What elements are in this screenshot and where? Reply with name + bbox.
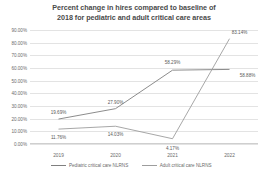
y-axis-tick-label: 30.00%: [11, 104, 27, 109]
data-label: 58.88%: [240, 73, 256, 78]
chart-container: Percent change in hires compared to base…: [0, 0, 263, 179]
series-line-2: [59, 39, 230, 139]
chart-title: Percent change in hires compared to base…: [18, 3, 250, 22]
x-axis-tick-label: 2019: [53, 153, 64, 158]
grid-line: [30, 144, 258, 145]
y-axis-tick-label: 90.00%: [11, 28, 27, 33]
x-axis-tick-label: 2020: [110, 153, 121, 158]
legend-item[interactable]: Pediatric critical care NLRNS: [51, 163, 128, 168]
chart-title-line-2: 2018 for pediatric and adult critical ca…: [18, 13, 250, 23]
data-label: 27.90%: [108, 99, 124, 104]
y-axis-tick-label: 20.00%: [11, 116, 27, 121]
y-axis-tick-label: 50.00%: [11, 78, 27, 83]
y-axis-tick-label: 10.00%: [11, 129, 27, 134]
data-label: 4.17%: [166, 145, 179, 150]
y-axis-tick-label: 70.00%: [11, 53, 27, 58]
chart-legend: Pediatric critical care NLRNSAdult criti…: [0, 163, 263, 168]
chart-title-line-1: Percent change in hires compared to base…: [18, 3, 250, 13]
y-axis-tick-label: 80.00%: [11, 40, 27, 45]
data-label: 11.76%: [51, 135, 66, 140]
legend-swatch-icon: [51, 165, 66, 166]
series-lines: [30, 30, 258, 144]
legend-label: Pediatric critical care NLRNS: [69, 163, 128, 168]
y-axis-tick-label: 60.00%: [11, 66, 27, 71]
y-axis-tick-label: 40.00%: [11, 91, 27, 96]
data-label: 58.29%: [165, 60, 181, 65]
data-label: 19.69%: [51, 110, 67, 115]
series-line-1: [59, 69, 230, 119]
legend-swatch-icon: [142, 165, 157, 166]
y-axis-tick-label: 0.00%: [14, 142, 27, 147]
x-axis-tick-label: 2021: [167, 153, 178, 158]
plot-area: 90.00%80.00%70.00%60.00%50.00%40.00%30.0…: [30, 30, 258, 144]
legend-item[interactable]: Adult critical care NLRNS: [142, 163, 211, 168]
x-axis-tick-label: 2022: [224, 153, 235, 158]
legend-label: Adult critical care NLRNS: [160, 163, 212, 168]
data-label: 83.14%: [232, 29, 248, 34]
data-label: 14.03%: [108, 132, 124, 137]
